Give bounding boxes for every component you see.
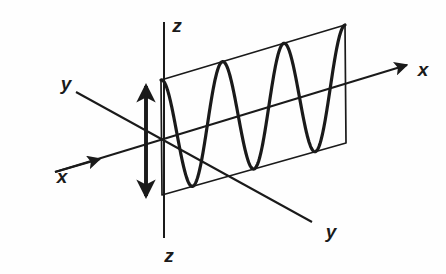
x-axis-label-left: x [56, 166, 69, 187]
y-axis [76, 92, 312, 222]
y-axis-label-upper-left: y [60, 73, 73, 94]
sine-wave [161, 25, 345, 186]
x-axis-label-right: x [417, 59, 430, 80]
z-axis-label-top: z [171, 15, 182, 36]
y-axis-line [76, 92, 312, 222]
wave-figure-svg: x x y y z z [0, 0, 446, 274]
wave-curve [161, 25, 345, 186]
polarized-wave-diagram: x x y y z z [0, 0, 446, 274]
z-axis-label-bottom: z [163, 245, 174, 266]
y-axis-label-lower-right: y [325, 221, 338, 242]
